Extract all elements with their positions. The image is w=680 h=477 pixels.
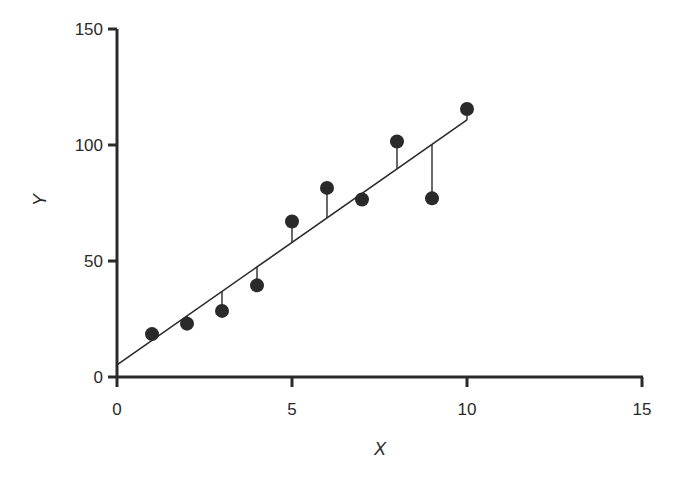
y-tick-label: 0 — [94, 368, 103, 387]
x-axis-ticks: 051015 — [112, 377, 651, 419]
data-point — [180, 317, 194, 331]
data-point — [390, 135, 404, 149]
y-tick-label: 150 — [75, 20, 103, 39]
data-point — [320, 181, 334, 195]
data-point — [285, 215, 299, 229]
scatter-chart: 050100150 051015 X Y — [0, 0, 680, 477]
x-tick-label: 5 — [287, 400, 296, 419]
x-tick-label: 0 — [112, 400, 121, 419]
data-point — [250, 278, 264, 292]
y-tick-label: 50 — [84, 252, 103, 271]
data-point — [425, 191, 439, 205]
data-point — [215, 304, 229, 318]
residual-lines — [152, 109, 467, 340]
data-point — [145, 327, 159, 341]
data-point — [355, 193, 369, 207]
x-axis-title: X — [373, 439, 387, 459]
data-point — [460, 102, 474, 116]
y-axis-ticks: 050100150 — [75, 20, 117, 387]
regression-line — [117, 120, 467, 365]
x-tick-label: 10 — [458, 400, 477, 419]
x-tick-label: 15 — [633, 400, 652, 419]
y-tick-label: 100 — [75, 136, 103, 155]
data-points — [145, 102, 474, 341]
y-axis-title: Y — [30, 192, 50, 206]
